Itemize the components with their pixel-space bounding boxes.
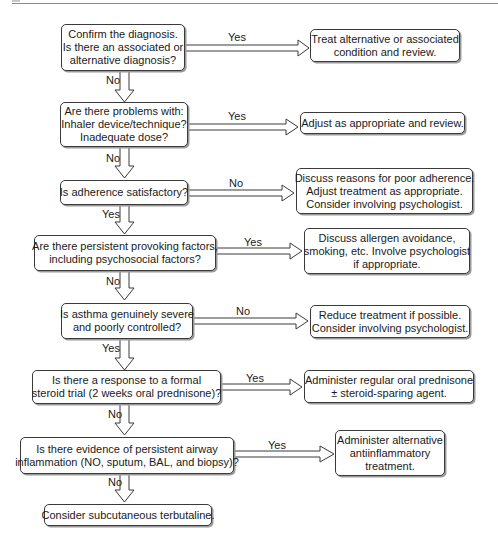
label-q4-yes: Yes <box>244 236 262 248</box>
label-q6-yes: Yes <box>246 372 264 384</box>
label-q5-no: No <box>236 305 250 317</box>
decision-inhaler-problems: Are there problems with: Inhaler device/… <box>60 102 188 147</box>
terminal-terbutaline: Consider subcutaneous terbutaline. <box>44 504 212 526</box>
action-text: if appropriate. <box>353 258 420 271</box>
decision-text: Is there an associated or <box>63 41 183 54</box>
action-text: ± steroid-sparing agent. <box>331 387 447 400</box>
arrow-q1-yes <box>183 40 309 56</box>
label-q2-no: No <box>106 152 120 164</box>
terminal-text: Consider subcutaneous terbutaline. <box>41 509 214 522</box>
decision-text: Are there problems with: <box>64 105 183 118</box>
decision-text: Are there persistent provoking factors, <box>32 240 218 253</box>
action-text: Administer regular oral prednisone <box>305 374 473 387</box>
decision-text: including psychosocial factors? <box>49 253 201 266</box>
label-q4-no: No <box>106 275 120 287</box>
action-text: smoking, etc. Involve psychologist <box>304 245 470 258</box>
decision-provoking-factors: Are there persistent provoking factors, … <box>34 235 216 271</box>
decision-text: Is asthma genuinely severe <box>60 308 194 321</box>
decision-airway-inflammation: Is there evidence of persistent airway i… <box>20 437 234 474</box>
action-oral-prednisone: Administer regular oral prednisone ± ste… <box>304 370 474 403</box>
decision-text: Is there evidence of persistent airway <box>36 443 218 456</box>
label-q7-yes: Yes <box>268 439 286 451</box>
label-q6-no: No <box>108 408 122 420</box>
decision-text: and poorly controlled? <box>73 321 181 334</box>
decision-steroid-trial: Is there a response to a formal steroid … <box>32 370 221 404</box>
decision-confirm-diagnosis: Confirm the diagnosis. Is there an assoc… <box>61 24 185 71</box>
label-q3-no: No <box>229 177 243 189</box>
decision-asthma-severe: Is asthma genuinely severe and poorly co… <box>61 303 193 339</box>
action-treat-alternative: Treat alternative or associated conditio… <box>310 29 460 62</box>
decision-adherence: Is adherence satisfactory? <box>60 180 188 205</box>
decision-text: Inhaler device/technique? <box>61 118 186 131</box>
action-text: Consider involving psychologist. <box>306 198 463 211</box>
label-q2-yes: Yes <box>228 110 246 122</box>
label-q5-yes: Yes <box>102 342 120 354</box>
action-text: treatment. <box>365 460 415 473</box>
action-adjust-review: Adjust as appropriate and review. <box>300 112 465 134</box>
label-q1-yes: Yes <box>228 31 246 43</box>
decision-text: Is adherence satisfactory? <box>60 186 188 199</box>
action-text: Treat alternative or associated <box>311 33 459 46</box>
action-text: Reduce treatment if possible. <box>319 309 461 322</box>
action-text: Adjust as appropriate and review. <box>301 117 464 130</box>
action-text: Discuss reasons for poor adherence. <box>295 172 475 185</box>
action-text: condition and review. <box>334 46 437 59</box>
action-allergen-avoidance: Discuss allergen avoidance, smoking, etc… <box>304 228 470 274</box>
label-q3-yes: Yes <box>102 208 120 220</box>
action-text: Consider involving psychologist. <box>312 322 469 335</box>
action-alternative-antiinflammatory: Administer alternative antiinflammatory … <box>335 430 445 476</box>
decision-text: steroid trial (2 weeks oral prednisone)? <box>32 387 222 400</box>
action-text: Discuss allergen avoidance, <box>319 232 456 245</box>
action-reduce-treatment: Reduce treatment if possible. Consider i… <box>310 305 470 338</box>
label-q7-no: No <box>108 476 122 488</box>
action-text: Administer alternative <box>337 434 443 447</box>
decision-text: alternative diagnosis? <box>70 54 176 67</box>
decision-text: Inadequate dose? <box>80 131 168 144</box>
label-q1-no: No <box>106 74 120 86</box>
decision-text: Confirm the diagnosis. <box>68 28 177 41</box>
decision-text: inflammation (NO, sputum, BAL, and biops… <box>15 456 239 469</box>
action-discuss-adherence: Discuss reasons for poor adherence. Adju… <box>296 168 473 214</box>
action-text: Adjust treatment as appropriate. <box>306 185 463 198</box>
action-text: antiinflammatory <box>350 447 431 460</box>
decision-text: Is there a response to a formal <box>52 374 201 387</box>
